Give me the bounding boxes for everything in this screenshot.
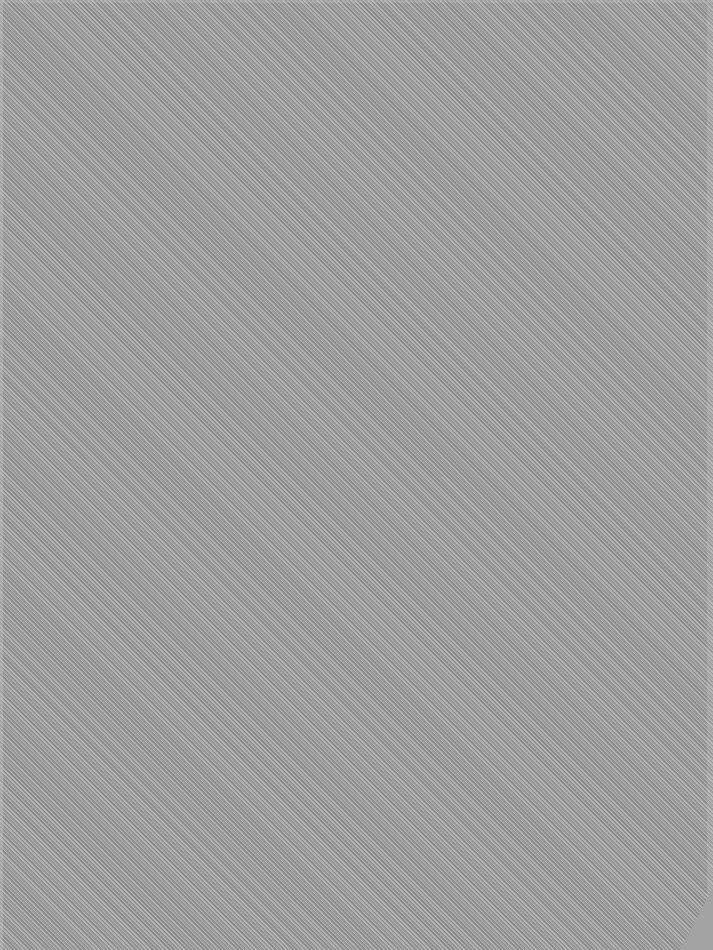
left-edge-strip: [0, 0, 3, 950]
corner-resize-region: [0, 0, 713, 950]
desktop-background[interactable]: [0, 0, 713, 950]
right-edge-strip: [707, 0, 713, 950]
top-edge-strip: [0, 0, 713, 3]
